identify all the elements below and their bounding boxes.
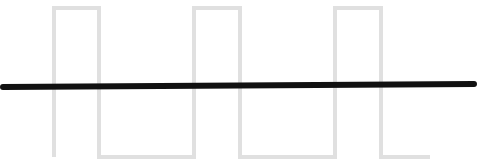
baseline-path (3, 84, 474, 87)
waveform-plot (0, 0, 478, 168)
figure-canvas (0, 0, 478, 168)
